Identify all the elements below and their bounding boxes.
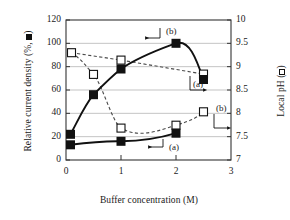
y-axis-right-title-post: ): [276, 65, 286, 68]
y-right-tick-7p5: 7.5: [236, 131, 262, 141]
x-axis-title: Buffer concentration (M): [66, 195, 232, 205]
gridlines: [66, 43, 231, 136]
y-left-tick-120: 120: [35, 14, 61, 24]
y-left-tick-0: 0: [35, 154, 61, 164]
annotation-b-lower-right: (b): [216, 103, 227, 113]
open-square-legend-icon: [279, 69, 285, 75]
y-axis-right-title: Local pH (): [276, 16, 286, 166]
y-axis-right-ticks: [227, 20, 231, 160]
y-left-tick-60: 60: [35, 84, 61, 94]
x-tick-0: 0: [56, 166, 76, 176]
y-right-tick-10: 10: [236, 14, 262, 24]
annotation-b-top: (b): [166, 26, 177, 36]
x-axis-ticks: [121, 155, 176, 160]
y-axis-left-title-post: ): [23, 30, 33, 33]
y-axis-left-ticks: [66, 20, 70, 160]
y-axis-right-title-pre: Local pH (: [276, 75, 286, 117]
y-left-tick-80: 80: [35, 61, 61, 71]
y-right-tick-7: 7: [236, 154, 262, 164]
y-right-tick-8: 8: [236, 107, 262, 117]
y-right-tick-9: 9: [236, 61, 262, 71]
y-left-tick-40: 40: [35, 107, 61, 117]
y-axis-left-title: Relative current density (%, ): [23, 16, 33, 166]
x-tick-2: 2: [166, 166, 186, 176]
y-left-tick-20: 20: [35, 131, 61, 141]
annotation-a-bottom: (a): [169, 142, 179, 152]
series-current-density-b: [70, 43, 203, 135]
x-tick-1: 1: [111, 166, 131, 176]
chart-figure: Relative current density (%, ) Local pH …: [0, 0, 290, 220]
y-right-tick-9p5: 9.5: [236, 37, 262, 47]
filled-square-legend-icon: [26, 34, 32, 40]
x-tick-3: 3: [221, 166, 241, 176]
markers-open-square: [68, 49, 208, 132]
annotation-a-upper-right: (a): [193, 79, 203, 89]
y-axis-left-title-pre: Relative current density (%,: [23, 40, 33, 152]
y-left-tick-100: 100: [35, 37, 61, 47]
y-right-tick-8p5: 8.5: [236, 84, 262, 94]
